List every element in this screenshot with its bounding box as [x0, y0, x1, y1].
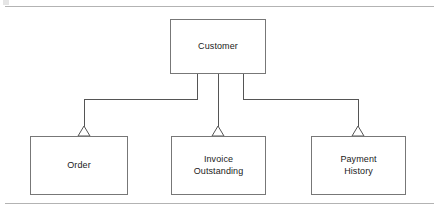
class-name-order: Order: [67, 160, 91, 172]
uml-diagram-canvas: Customer Order Invoice Outstanding Payme…: [0, 0, 446, 215]
class-name-customer: Customer: [198, 41, 238, 53]
connector-payment-history: [243, 74, 358, 127]
connector-order: [84, 74, 197, 127]
generalization-arrowhead-payment-history: [352, 126, 364, 136]
class-box-customer[interactable]: Customer: [170, 19, 266, 74]
class-box-order[interactable]: Order: [30, 136, 128, 195]
class-name-invoice-outstanding: Invoice Outstanding: [194, 154, 244, 177]
class-box-payment-history[interactable]: Payment History: [311, 136, 406, 195]
class-box-invoice-outstanding[interactable]: Invoice Outstanding: [171, 136, 266, 195]
class-name-payment-history: Payment History: [340, 154, 376, 177]
generalization-arrowhead-invoice-outstanding: [212, 126, 224, 136]
generalization-arrowhead-order: [78, 126, 90, 136]
